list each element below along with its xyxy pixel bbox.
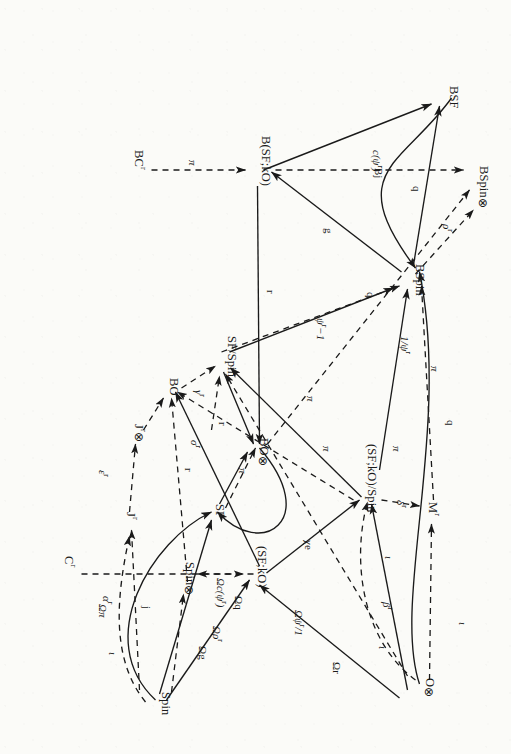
edge-label-iota-1: ι: [382, 556, 393, 559]
node-sf-ko-spin: (SF;kO)/Spin: [365, 444, 378, 513]
edge-label-c-psi-r: c(ψr): [370, 150, 383, 172]
node-jr-tensor: Jr⊗: [132, 424, 147, 442]
node-m-r: Mr: [426, 502, 441, 516]
node-sf: SF: [213, 504, 226, 518]
edge-label-alpha-r: αr: [100, 596, 113, 604]
edge-label-sigma-r: σr: [188, 440, 201, 448]
edge-label-om-r: Ωr: [330, 662, 341, 674]
edge-label-om-pi: Ωπ: [96, 604, 107, 617]
node-bsf: BSF: [447, 86, 460, 109]
edge-label-om-c-psi: Ωc(ψr): [214, 578, 227, 608]
edge-label-r-right: r: [182, 468, 193, 472]
edge-label-iota-2: ι: [456, 622, 467, 625]
edge-label-delta-r: δr: [394, 500, 407, 508]
edge-label-pi-bo: π: [236, 468, 247, 474]
node-bc-r: BCr: [132, 150, 147, 170]
edge-label-rho-r: ρr: [440, 224, 453, 232]
edge-label-q-left: q: [444, 420, 455, 426]
node-c-r: Cr: [62, 556, 77, 567]
edge-label-pi-1: π: [320, 446, 331, 452]
node-bo: BO: [167, 378, 180, 396]
diagram-edges: [0, 0, 511, 754]
node-j-r: Jr: [124, 512, 139, 520]
diagram-stage: BSF BSpin BSpin⊗ BCr B(SF;kO) BO⊗ SF/Spi…: [0, 0, 511, 754]
edge-label-pi-bc: π: [186, 160, 197, 166]
edge-label-iota-4: ι: [106, 652, 117, 655]
edge-label-pi-3: π: [304, 396, 315, 402]
edge-label-iota-3: ι: [376, 646, 387, 649]
node-bspin: BSpin: [413, 264, 426, 296]
node-sf-spin: SF/Spin: [225, 336, 238, 377]
node-b-sf-ko: B(SF;kO): [259, 136, 272, 186]
node-bspin-tensor: BSpin⊗: [476, 166, 489, 208]
edge-label-psi-r-m1: ψr−1: [314, 318, 327, 340]
node-spin: Spin: [159, 692, 172, 715]
edge-label-gamma-r: γr: [192, 390, 205, 397]
node-bo-tensor: BO⊗: [256, 438, 269, 466]
edge-label-beta-r: βr: [380, 602, 393, 610]
edge-label-om-q: Ωq: [232, 596, 243, 610]
node-spin-tensor: Spin⊗: [182, 562, 195, 595]
edge-label-j: j: [140, 606, 151, 609]
edge-label-chi-e: χe: [302, 540, 313, 550]
edge-label-pi-bspin: π: [428, 366, 439, 372]
edge-label-om-psi-r: Ωψr/1: [292, 610, 305, 636]
node-o-tensor: O⊗: [422, 678, 435, 697]
edge-label-q-top: q: [410, 186, 421, 192]
edge-label-om-rho-r: Ωρr: [210, 626, 223, 642]
edge-label-g: g: [322, 228, 333, 234]
edge-label-inv-psi-r: 1/ψr: [398, 336, 411, 354]
edge-label-pi-2: π: [390, 446, 401, 452]
node-sf-ko: (SF;kO): [255, 546, 268, 588]
edge-label-om-g: Ωg: [196, 646, 207, 660]
edge-label-q-mid: q: [364, 292, 375, 298]
edge-label-eps-r: εr: [96, 470, 109, 477]
diagram-page: BSF BSpin BSpin⊗ BCr B(SF;kO) BO⊗ SF/Spi…: [0, 0, 511, 754]
edge-label-r-mid: r: [216, 422, 227, 426]
edge-label-r-bo: r: [264, 290, 275, 294]
